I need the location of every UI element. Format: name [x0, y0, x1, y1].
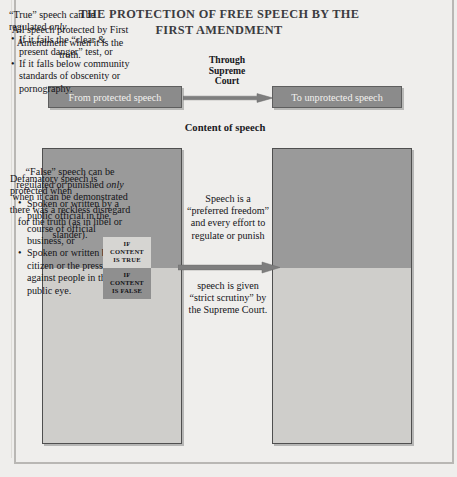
- right-panel-content: [273, 149, 411, 443]
- stamp-false-line-1: IF: [103, 271, 151, 279]
- stamp-true-line-2: CONTENT: [103, 248, 151, 256]
- false-speech-text-before: “False” speech can be regulated or punis…: [16, 166, 114, 190]
- middle-column-bottom-text: speech is given “strict scrutiny” by the…: [185, 280, 271, 317]
- middle-flow-arrow-icon: [178, 261, 280, 274]
- through-supreme-court-label: Through Supreme Court: [183, 55, 271, 87]
- to-unprotected-speech-label: To unprotected speech: [291, 92, 383, 103]
- right-panel-bottom-text: “False” speech can be regulated or punis…: [6, 166, 134, 241]
- right-panel-top-text: “True” speech can be regulated only If i…: [9, 9, 133, 95]
- stamp-true-line-3: IS TRUE: [103, 256, 151, 264]
- content-of-speech-label: Content of speech: [130, 122, 320, 133]
- middle-column-top-text: Speech is a “preferred freedom” and ever…: [185, 193, 271, 242]
- false-speech-text-after: when it can be demonstrated there was a …: [10, 191, 131, 240]
- through-label-line-1: Through: [183, 55, 271, 66]
- stamp-false-line-2: CONTENT: [103, 279, 151, 287]
- top-flow-arrow-icon: [183, 93, 273, 103]
- through-label-line-3: Court: [183, 76, 271, 87]
- true-speech-lead: “True” speech can be regulated only: [9, 9, 133, 34]
- false-speech-emphasis: only: [106, 179, 123, 190]
- if-content-is-false-stamp: IF CONTENT IS FALSE: [103, 268, 151, 299]
- true-speech-bullet-2: If it falls below community standards of…: [11, 58, 133, 95]
- right-panel: [272, 148, 412, 444]
- stamp-true-line-1: IF: [103, 240, 151, 248]
- true-speech-lead-emphasis: only: [49, 21, 66, 32]
- stamp-false-line-3: IS FALSE: [103, 287, 151, 295]
- to-unprotected-speech-box: To unprotected speech: [272, 86, 402, 108]
- if-content-is-true-stamp: IF CONTENT IS TRUE: [103, 237, 151, 268]
- true-speech-bullet-1: If it fails the “clear & present danger”…: [11, 34, 133, 59]
- true-speech-bullet-list: If it fails the “clear & present danger”…: [9, 34, 133, 95]
